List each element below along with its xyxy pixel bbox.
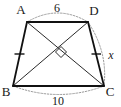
geometry-figure: A D B C 6 10 x	[0, 0, 121, 107]
vertex-label-b: B	[2, 84, 11, 99]
vertex-label-c: C	[106, 84, 115, 99]
trapezoid-diagram-svg: A D B C 6 10 x	[0, 0, 121, 107]
measure-label-top: 6	[54, 1, 60, 15]
vertex-label-d: D	[89, 3, 98, 18]
measure-label-bottom: 10	[52, 94, 64, 107]
vertex-label-a: A	[16, 2, 26, 17]
measure-label-right: x	[107, 48, 114, 62]
trapezoid-outline	[13, 22, 104, 86]
